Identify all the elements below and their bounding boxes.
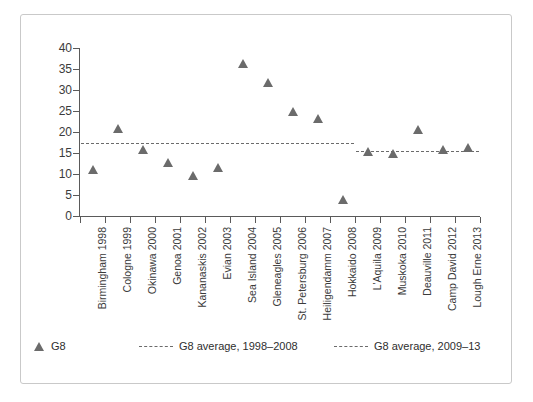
y-axis-tick-label: 30: [28, 84, 72, 96]
data-point-marker: [288, 107, 298, 116]
x-axis-tick: [205, 217, 206, 223]
x-axis-category-label: Evian 2003: [222, 227, 233, 280]
data-point-marker: [138, 145, 148, 154]
data-point-marker: [313, 114, 323, 123]
average-line: [81, 143, 354, 144]
x-axis-tick: [230, 217, 231, 223]
x-axis-tick: [480, 217, 481, 223]
x-axis-tick: [80, 217, 81, 223]
y-axis-tick: [73, 48, 79, 49]
legend-label: G8 average, 2009–13: [374, 341, 480, 352]
y-axis-tick: [73, 69, 79, 70]
x-axis-category-label: Heiligendamm 2007: [322, 227, 333, 320]
y-axis-tick-label: 0: [28, 210, 72, 222]
average-line: [356, 151, 479, 152]
data-point-marker: [363, 147, 373, 156]
y-axis-tick: [73, 132, 79, 133]
legend-entry[interactable]: G8 average, 2009–13: [334, 337, 480, 355]
x-axis-category-label: Lough Erne 2013: [472, 227, 483, 308]
y-axis-tick-label: 40: [28, 42, 72, 54]
y-axis-tick-label: 35: [28, 63, 72, 75]
data-point-marker: [413, 125, 423, 134]
y-axis-tick-label: 20: [28, 126, 72, 138]
x-axis-category-label: Hokkaido 2008: [347, 227, 358, 297]
x-axis-category-label: Genoa 2001: [172, 227, 183, 285]
y-axis-tick: [73, 174, 79, 175]
data-point-marker: [388, 149, 398, 158]
x-axis-tick: [405, 217, 406, 223]
y-axis-tick: [73, 216, 79, 217]
data-point-marker: [263, 78, 273, 87]
x-axis-category-label: Kananaskis 2002: [197, 227, 208, 308]
x-axis-tick: [305, 217, 306, 223]
y-axis-tick-label: 10: [28, 168, 72, 180]
x-axis-tick: [330, 217, 331, 223]
y-axis-tick: [73, 153, 79, 154]
x-axis-category-label: Deauville 2011: [422, 227, 433, 296]
legend-label: G8: [51, 341, 66, 352]
data-point-marker: [213, 163, 223, 172]
x-axis-category-label: Gleneagles 2005: [272, 227, 283, 306]
data-point-marker: [113, 124, 123, 133]
data-point-marker: [88, 165, 98, 174]
x-axis-category-label: Muskoka 2010: [397, 227, 408, 295]
x-axis-tick: [455, 217, 456, 223]
dashed-line-icon: [139, 346, 173, 347]
chart-legend: G8G8 average, 1998–2008G8 average, 2009–…: [34, 337, 504, 357]
chart-frame: [20, 14, 512, 384]
y-axis-tick: [73, 195, 79, 196]
x-axis-tick: [105, 217, 106, 223]
y-axis-tick-label: 15: [28, 147, 72, 159]
data-point-marker: [188, 171, 198, 180]
x-axis-tick: [180, 217, 181, 223]
y-axis-tick-label: 5: [28, 189, 72, 201]
x-axis-category-label: Okinawa 2000: [147, 227, 158, 294]
x-axis-category-label: Sea Island 2004: [247, 227, 258, 303]
x-axis-category-label: Cologne 1999: [122, 227, 133, 292]
data-point-marker: [463, 143, 473, 152]
x-axis-tick: [430, 217, 431, 223]
x-axis-tick: [355, 217, 356, 223]
x-axis-tick: [255, 217, 256, 223]
x-axis-tick: [130, 217, 131, 223]
triangle-marker-icon: [34, 342, 44, 351]
y-axis-tick: [73, 90, 79, 91]
chart-figure: 4035302520151050 Birmingham 1998Cologne …: [0, 0, 533, 402]
legend-entry[interactable]: G8 average, 1998–2008: [139, 337, 298, 355]
y-axis-tick-label: 25: [28, 105, 72, 117]
x-axis-category-label: St. Petersburg 2006: [297, 227, 308, 320]
data-point-marker: [338, 195, 348, 204]
x-axis-category-label: Birmingham 1998: [97, 227, 108, 309]
data-point-marker: [163, 158, 173, 167]
x-axis-category-label: Camp David 2012: [447, 227, 458, 311]
dashed-line-icon: [334, 346, 368, 347]
data-point-marker: [238, 59, 248, 68]
y-axis-tick: [73, 111, 79, 112]
legend-entry[interactable]: G8: [34, 337, 66, 355]
legend-label: G8 average, 1998–2008: [179, 341, 298, 352]
x-axis-tick: [380, 217, 381, 223]
x-axis-tick: [155, 217, 156, 223]
x-axis-tick: [280, 217, 281, 223]
x-axis-category-label: L'Aquila 2009: [372, 227, 383, 290]
data-point-marker: [438, 145, 448, 154]
y-axis-line: [79, 48, 80, 217]
